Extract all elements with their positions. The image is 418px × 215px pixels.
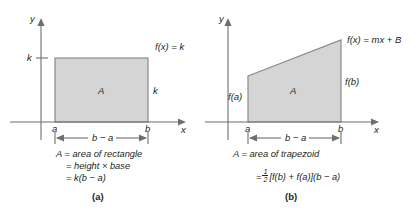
panel-a-measure-arrow-right (139, 135, 147, 142)
panel-a-measure-label: b − a (92, 133, 113, 143)
panel-a-formula-line-3: = k(b − a) (66, 174, 106, 183)
panel-b-region-label: A (290, 86, 296, 96)
panel-a-height-label: k (153, 86, 158, 96)
panel-a-measure-arrow-left (56, 135, 64, 142)
panel-b-right-height-label: f(b) (345, 77, 359, 87)
panel-a-function-label: f(x) = k (155, 42, 184, 52)
panel-b-x-tick-left-label: a (245, 124, 250, 134)
panel-a-x-tick-left-label: a (52, 124, 57, 134)
fraction-denominator: 2 (262, 175, 268, 183)
panel-b-measure-label: b − a (285, 133, 306, 143)
panel-a-caption: (a) (92, 192, 104, 202)
panel-b-measure-arrow-left (249, 135, 257, 142)
panel-b-formula-prefix: = (256, 172, 261, 182)
figure-graphics (0, 0, 418, 215)
panel-b-y-axis-arrowhead (224, 18, 231, 26)
fraction-numerator: 1 (262, 168, 268, 175)
panel-a-y-axis-arrowhead (37, 18, 44, 26)
panel-a-x-tick-right-label: b (145, 124, 150, 134)
panel-a-y-axis-label: y (30, 14, 35, 24)
panel-b-x-axis-label: x (374, 125, 379, 135)
panel-b-function-label: f(x) = mx + B (347, 35, 401, 45)
panel-b-formula-line-1: A = area of trapezoid (233, 150, 319, 159)
panel-a-y-tick-label: k (27, 53, 32, 63)
panel-b-y-axis-label: y (219, 14, 224, 24)
panel-a-x-axis-label: x (181, 125, 186, 135)
panel-a-graphics (10, 18, 186, 144)
panel-a-formula-line-1: A = area of rectangle (56, 150, 142, 159)
trapezoid-region (248, 40, 341, 122)
panel-b-caption: (b) (285, 192, 297, 202)
panel-b-left-height-label: f(a) (228, 92, 242, 102)
one-half-fraction: 12 (262, 168, 268, 184)
panel-a-formula-line-2: = height × base (66, 162, 130, 171)
panel-b-x-tick-right-label: b (338, 124, 343, 134)
panel-b-measure-arrow-right (332, 135, 340, 142)
panel-b-formula-fraction-line: =12[f(b) + f(a)](b − a) (256, 168, 340, 184)
figure-container: y x k A f(x) = k k a b b − a A = area of… (0, 0, 418, 215)
panel-a-region-label: A (98, 86, 104, 96)
panel-b-formula-suffix: [f(b) + f(a)](b − a) (269, 172, 340, 182)
